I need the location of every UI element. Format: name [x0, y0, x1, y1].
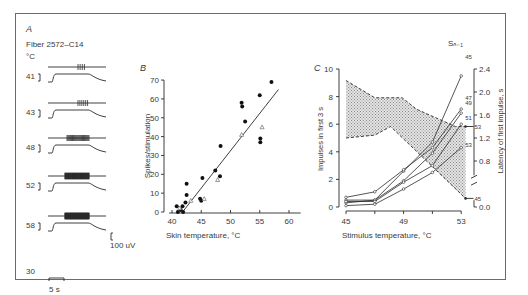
panel-b-xlabel: Skin temperature, °C — [166, 231, 241, 240]
series-marker — [345, 200, 348, 203]
series-header: Sₙ₋₁ — [448, 39, 463, 48]
data-point-filled — [213, 169, 217, 173]
series-end-label: 49 — [465, 100, 472, 106]
series-marker — [345, 196, 348, 199]
x-tick-label: 50 — [226, 217, 235, 226]
left-y-tick-label: 2 — [329, 175, 334, 184]
x-tick-label: 45 — [197, 217, 206, 226]
series-marker — [402, 188, 405, 191]
figure-canvas: A Fiber 2572–C14 °C 4143485258 30 100 uV… — [0, 0, 528, 295]
stimulus-line — [48, 183, 106, 191]
baseline-temp-label: 30 — [26, 267, 35, 276]
data-point-triangle — [260, 125, 264, 129]
series-marker — [345, 204, 348, 207]
band-end-label: 53 — [475, 124, 482, 130]
series-marker — [460, 146, 463, 149]
axis-break-icon — [471, 175, 477, 185]
trace-48: 48 — [26, 135, 106, 153]
series-marker — [460, 108, 463, 111]
panel-b-ylabel: Spikes/stimulation — [143, 114, 152, 178]
regression-line — [183, 89, 279, 212]
x-tick-label: 55 — [255, 217, 264, 226]
trace-43: 43 — [26, 100, 106, 118]
right-y-tick-label: 1.2 — [479, 134, 491, 143]
left-y-tick-label: 6 — [329, 120, 334, 129]
panel-c: C 5345 02468100.00.81.21.62.02.4454953 4… — [314, 39, 505, 240]
y-tick-label: 70 — [150, 76, 159, 85]
data-point-filled — [240, 104, 244, 108]
band-end-dot — [464, 125, 467, 128]
data-point-triangle — [202, 197, 206, 201]
stimulus-line — [48, 223, 106, 231]
data-point-filled — [219, 144, 223, 148]
panel-c-letter: C — [314, 63, 321, 73]
trace-temp-label: 43 — [26, 108, 35, 117]
trace-52: 52 — [26, 173, 106, 191]
data-point-filled — [175, 204, 179, 208]
temp-bracket — [38, 145, 40, 152]
temp-bracket — [38, 223, 40, 230]
amplitude-scale-label: 100 uV — [110, 241, 136, 250]
data-point-filled — [258, 93, 262, 97]
series-end-label: 45 — [465, 54, 472, 60]
data-point-filled — [240, 101, 244, 105]
right-y-tick-label: 0.0 — [479, 203, 491, 212]
panel-c-xlabel: Stimulus temperature, °C — [342, 231, 432, 240]
left-y-tick-label: 8 — [329, 93, 334, 102]
band-end-label: 45 — [475, 196, 482, 202]
temp-bracket — [38, 183, 40, 190]
time-scale-bar: 5 s — [49, 278, 64, 294]
panel-b-axes: 0102030405060704045505560 — [150, 76, 301, 226]
data-point-filled — [185, 193, 189, 197]
left-y-tick-label: 10 — [324, 65, 333, 74]
series-marker — [402, 168, 405, 171]
panel-a: A Fiber 2572–C14 °C 4143485258 30 100 uV… — [25, 24, 136, 294]
panel-b-letter: B — [140, 63, 146, 73]
y-tick-label: 10 — [150, 189, 159, 198]
data-point-filled — [258, 140, 262, 144]
time-scale-label: 5 s — [49, 285, 60, 294]
series-marker — [460, 112, 463, 115]
x-tick-label: 40 — [168, 217, 177, 226]
data-point-filled — [243, 120, 247, 124]
x-tick-label: 53 — [457, 217, 466, 226]
panel-b-data-points — [175, 80, 279, 214]
data-point-filled — [269, 80, 273, 84]
data-point-filled — [185, 182, 189, 186]
left-y-tick-label: 0 — [329, 203, 334, 212]
series-end-label: 53 — [465, 142, 472, 148]
trace-temp-label: 41 — [26, 72, 35, 81]
y-tick-label: 0 — [155, 208, 160, 217]
data-point-filled — [183, 201, 187, 205]
panel-a-letter: A — [25, 24, 32, 34]
series-marker — [431, 146, 434, 149]
amplitude-scale-bar: 100 uV — [110, 233, 136, 250]
x-tick-label: 60 — [285, 217, 294, 226]
stimulus-line — [48, 74, 106, 82]
trace-temp-label: 48 — [26, 143, 35, 152]
left-y-tick-label: 4 — [329, 148, 334, 157]
series-marker — [402, 181, 405, 184]
band-end-dot — [464, 197, 467, 200]
trace-58: 58 — [26, 213, 106, 231]
data-point-filled — [218, 174, 222, 178]
stimulus-line — [48, 110, 106, 118]
panel-c-right-ylabel: Latency of first impulse, s — [496, 88, 505, 173]
temp-bracket — [38, 110, 40, 117]
panel-c-left-ylabel: Impulses in first 3 s — [316, 107, 325, 171]
series-marker — [460, 75, 463, 78]
stimulus-line — [48, 145, 106, 153]
series-marker — [460, 123, 463, 126]
series-marker — [431, 152, 434, 155]
y-tick-label: 60 — [150, 95, 159, 104]
right-y-tick-label: 0.8 — [479, 157, 491, 166]
right-y-tick-label: 2.4 — [479, 65, 491, 74]
x-tick-label: 45 — [342, 217, 351, 226]
data-point-triangle — [216, 178, 220, 182]
data-point-filled — [200, 176, 204, 180]
right-y-tick-label: 1.6 — [479, 111, 491, 120]
spike-traces: 4143485258 — [26, 64, 106, 231]
data-point-filled — [181, 210, 185, 214]
x-tick-label: 49 — [399, 217, 408, 226]
panel-b: B 0102030405060704045505560 Spikes/stimu… — [140, 63, 301, 240]
